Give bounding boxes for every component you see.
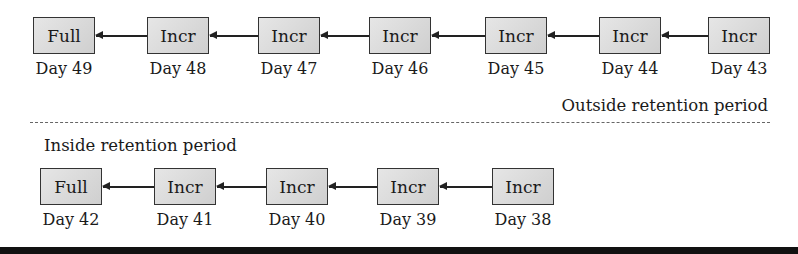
day-label: Day 39 bbox=[363, 210, 453, 229]
retention-divider bbox=[30, 122, 770, 123]
backup-box-incr: Incr bbox=[147, 17, 209, 54]
arrow-left-icon bbox=[210, 35, 258, 37]
day-label: Day 49 bbox=[19, 59, 109, 78]
arrow-left-icon bbox=[321, 35, 369, 37]
day-label: Day 40 bbox=[252, 210, 342, 229]
inside-retention-label: Inside retention period bbox=[44, 136, 237, 155]
day-label: Day 42 bbox=[26, 210, 116, 229]
backup-box-incr: Incr bbox=[369, 17, 431, 54]
backup-box-incr: Incr bbox=[266, 168, 328, 205]
day-label: Day 38 bbox=[478, 210, 568, 229]
backup-box-incr: Incr bbox=[599, 17, 661, 54]
outside-retention-label: Outside retention period bbox=[562, 96, 768, 115]
day-label: Day 46 bbox=[355, 59, 445, 78]
backup-box-full: Full bbox=[40, 168, 102, 205]
bottom-rule bbox=[0, 247, 798, 254]
arrow-left-icon bbox=[96, 35, 147, 37]
arrow-left-icon bbox=[548, 35, 599, 37]
day-label: Day 41 bbox=[140, 210, 230, 229]
day-label: Day 45 bbox=[471, 59, 561, 78]
arrow-left-icon bbox=[103, 186, 154, 188]
backup-box-incr: Incr bbox=[485, 17, 547, 54]
arrow-left-icon bbox=[440, 186, 492, 188]
day-label: Day 47 bbox=[244, 59, 334, 78]
day-label: Day 44 bbox=[585, 59, 675, 78]
backup-box-full: Full bbox=[33, 17, 95, 54]
arrow-left-icon bbox=[432, 35, 485, 37]
arrow-left-icon bbox=[329, 186, 377, 188]
backup-box-incr: Incr bbox=[708, 17, 770, 54]
arrow-left-icon bbox=[217, 186, 266, 188]
day-label: Day 48 bbox=[133, 59, 223, 78]
day-label: Day 43 bbox=[694, 59, 784, 78]
backup-box-incr: Incr bbox=[377, 168, 439, 205]
backup-box-incr: Incr bbox=[154, 168, 216, 205]
backup-box-incr: Incr bbox=[258, 17, 320, 54]
backup-box-incr: Incr bbox=[492, 168, 554, 205]
arrow-left-icon bbox=[662, 35, 708, 37]
